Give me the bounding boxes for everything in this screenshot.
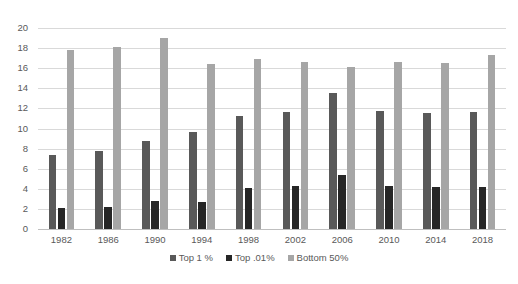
y-tick-label: 20 [17,23,28,33]
x-tick-label: 1986 [85,233,132,247]
legend-entry[interactable]: Bottom 50% [288,253,349,263]
bar [58,208,66,229]
bar [394,62,402,229]
legend-entry[interactable]: Top 1 % [170,253,213,263]
gridline [38,229,506,230]
y-tick-label: 0 [23,224,28,234]
bar [301,62,309,229]
bar [198,202,206,229]
y-tick-label: 12 [17,104,28,114]
legend-label: Top 1 % [179,253,213,263]
bar [151,201,159,229]
bar [189,132,197,229]
bar-group [319,28,366,229]
x-tick-label: 2014 [412,233,459,247]
bar [329,93,337,229]
bar [142,141,150,229]
bar [207,64,215,229]
x-tick-label: 1994 [178,233,225,247]
bar-group [459,28,506,229]
legend-label: Top .01% [235,253,275,263]
bar [95,151,103,229]
bar-group [38,28,85,229]
x-tick-label: 2002 [272,233,319,247]
y-tick-label: 8 [23,144,28,154]
bar [488,55,496,229]
x-tick-label: 1998 [225,233,272,247]
bar [113,47,121,229]
bar [236,116,244,229]
legend-swatch-icon [170,255,176,261]
y-tick-label: 18 [17,43,28,53]
bar [254,59,262,229]
bar [245,188,253,229]
x-tick-label: 2010 [366,233,413,247]
legend-label: Bottom 50% [297,253,349,263]
bar [67,50,75,229]
y-axis-tick-labels: 02468101214161820 [0,28,32,229]
legend-entry[interactable]: Top .01% [226,253,275,263]
legend-swatch-icon [226,255,232,261]
y-tick-label: 14 [17,84,28,94]
bar-group [85,28,132,229]
x-tick-label: 2018 [459,233,506,247]
legend-swatch-icon [288,255,294,261]
bar [470,112,478,229]
bar [432,187,440,229]
bar [479,187,487,229]
bar [49,155,57,229]
bar [338,175,346,229]
bar-group [225,28,272,229]
y-tick-label: 16 [17,63,28,73]
bar-group [272,28,319,229]
x-tick-label: 1982 [38,233,85,247]
bar [160,38,168,229]
y-tick-label: 10 [17,124,28,134]
bar [385,186,393,229]
bar [283,112,291,229]
bar [292,186,300,229]
y-tick-label: 2 [23,204,28,214]
y-tick-label: 6 [23,164,28,174]
bar [423,113,431,229]
bar-group [412,28,459,229]
y-tick-label: 4 [23,184,28,194]
x-tick-label: 1990 [132,233,179,247]
bars-layer [38,28,506,229]
bar [376,111,384,229]
bar-group [366,28,413,229]
bar-chart: 02468101214161820 1982198619901994199820… [0,0,518,284]
bar [347,67,355,229]
bar [104,207,112,229]
x-tick-label: 2006 [319,233,366,247]
bar [441,63,449,229]
plot-area [38,28,506,229]
bar-group [132,28,179,229]
x-axis-tick-labels: 1982198619901994199820022006201020142018 [38,233,506,249]
bar-group [178,28,225,229]
chart-legend: Top 1 %Top .01%Bottom 50% [0,253,518,263]
